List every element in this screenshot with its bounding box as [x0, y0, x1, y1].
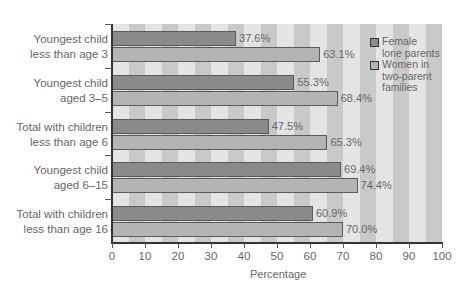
bar-women-two-parent — [112, 178, 358, 193]
x-tick — [409, 243, 410, 248]
value-label: 74.4% — [361, 178, 392, 193]
x-tick-label: 50 — [262, 250, 292, 262]
x-tick-label: 20 — [163, 250, 193, 262]
y-tick — [105, 155, 112, 156]
x-tick-label: 40 — [229, 250, 259, 262]
x-tick-label: 90 — [394, 250, 424, 262]
x-tick — [376, 243, 377, 248]
bar-women-two-parent — [112, 135, 327, 150]
legend-swatch — [370, 38, 379, 47]
bar-female-lone-parents — [112, 31, 236, 46]
category-label: Total with childrenless than age 16 — [0, 207, 108, 237]
value-label: 60.9% — [316, 206, 347, 221]
bar-female-lone-parents — [112, 162, 341, 177]
x-tick — [310, 243, 311, 248]
x-tick — [145, 243, 146, 248]
value-label: 65.3% — [330, 135, 361, 150]
x-tick-label: 10 — [130, 250, 160, 262]
x-tick — [244, 243, 245, 248]
legend: Femalelone parentsWomen intwo-parentfami… — [370, 36, 452, 94]
x-tick-label: 30 — [196, 250, 226, 262]
x-tick-label: 60 — [295, 250, 325, 262]
y-tick — [105, 68, 112, 69]
y-axis — [111, 24, 113, 244]
category-label: Youngest childless than age 3 — [0, 32, 108, 62]
x-tick-label: 70 — [328, 250, 358, 262]
x-tick — [277, 243, 278, 248]
value-label: 70.0% — [346, 222, 377, 237]
x-tick — [343, 243, 344, 248]
x-tick — [211, 243, 212, 248]
legend-item: Femalelone parents — [370, 36, 452, 59]
y-tick — [105, 112, 112, 113]
bar-chart: Percentage Femalelone parentsWomen intwo… — [0, 0, 474, 292]
value-label: 63.1% — [323, 47, 354, 62]
value-label: 69.4% — [344, 162, 375, 177]
category-label: Youngest childaged 3–5 — [0, 76, 108, 106]
value-label: 55.3% — [297, 75, 328, 90]
legend-item: Women intwo-parentfamilies — [370, 59, 452, 94]
bar-women-two-parent — [112, 91, 338, 106]
y-tick — [105, 199, 112, 200]
x-tick — [442, 243, 443, 248]
bar-women-two-parent — [112, 222, 343, 237]
value-label: 37.6% — [239, 31, 270, 46]
value-label: 68.4% — [341, 91, 372, 106]
category-label: Youngest childaged 6–15 — [0, 163, 108, 193]
bar-female-lone-parents — [112, 206, 313, 221]
x-axis-title: Percentage — [250, 268, 306, 280]
x-tick-label: 100 — [427, 250, 457, 262]
y-tick — [105, 24, 112, 25]
bar-women-two-parent — [112, 47, 320, 62]
x-tick-label: 80 — [361, 250, 391, 262]
x-tick-label: 0 — [97, 250, 127, 262]
bar-female-lone-parents — [112, 119, 269, 134]
bar-female-lone-parents — [112, 75, 294, 90]
category-label: Total with childrenless than age 6 — [0, 120, 108, 150]
value-label: 47.5% — [272, 119, 303, 134]
legend-swatch — [370, 61, 379, 70]
x-tick — [112, 243, 113, 248]
x-tick — [178, 243, 179, 248]
